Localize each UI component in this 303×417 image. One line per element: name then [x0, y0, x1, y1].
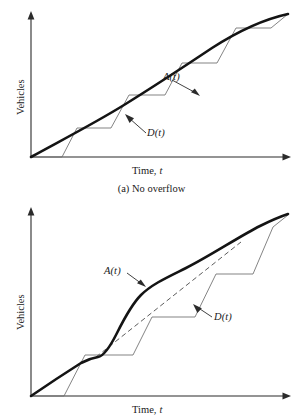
arrival-curve-label-bottom: A(t): [104, 266, 121, 277]
arrival-curve-bottom: [31, 214, 288, 396]
x-axis-label-symbol-bottom: t: [159, 404, 162, 415]
x-axis-label-symbol-top: t: [159, 165, 162, 176]
x-axis-arrow-icon-bottom: [283, 393, 292, 400]
arrival-leader-arrow-icon-bottom: [137, 280, 146, 287]
departure-curve-label-bottom: D(t): [214, 312, 232, 323]
y-axis-label-top: Vehicles: [16, 79, 27, 115]
arrival-leader-arrow-icon-top: [191, 89, 200, 96]
y-axis-arrow-icon-bottom: [28, 207, 35, 216]
x-axis-label-top: Time,t: [132, 166, 162, 177]
overflow-chord-dashed-line: [96, 242, 241, 357]
panel-overflow-plot: [0, 200, 303, 417]
arrival-curve-label-top: A(t): [163, 72, 180, 83]
panel-no-overflow: Vehicles Time,t A(t) D(t) (a) No overflo…: [0, 0, 303, 200]
x-axis-arrow-icon: [283, 154, 292, 161]
departure-curve-label-top: D(t): [147, 128, 165, 139]
x-axis-label-text-bottom: Time,: [132, 404, 156, 415]
y-axis-label-bottom: Vehicles: [16, 294, 27, 330]
x-axis-label-bottom: Time,t: [132, 405, 162, 416]
y-axis-arrow-icon: [28, 11, 35, 20]
x-axis-label-text-top: Time,: [132, 165, 156, 176]
figure-cumulative-vehicle-diagrams: Vehicles Time,t A(t) D(t) (a) No overflo…: [0, 0, 303, 417]
panel-caption-top: (a) No overflow: [0, 184, 303, 195]
panel-overflow: Vehicles Time,t A(t) D(t): [0, 200, 303, 417]
